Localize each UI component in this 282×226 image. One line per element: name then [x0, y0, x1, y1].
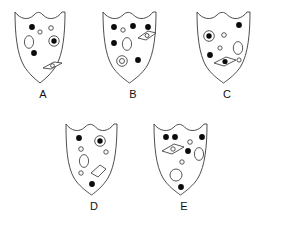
small-circle-d-3 — [79, 171, 83, 175]
dot-b-4 — [111, 40, 117, 46]
bullseye-d-core — [97, 138, 102, 143]
option-d[interactable]: D — [62, 120, 126, 212]
option-b-label: B — [100, 88, 166, 100]
shield-outline-a — [15, 12, 65, 83]
bullseye-a-core — [51, 38, 56, 43]
ellipse-c-1 — [233, 42, 242, 55]
small-circle-c-1 — [222, 33, 227, 38]
dot-e-2 — [172, 134, 178, 140]
dot-a-1 — [29, 24, 35, 30]
dot-e-3 — [199, 134, 205, 140]
shield-c-figure — [193, 8, 261, 86]
ellipse-a-1 — [24, 36, 33, 49]
option-a-label: A — [12, 88, 74, 100]
dot-c-2 — [207, 52, 213, 58]
small-circle-b-1 — [121, 28, 125, 32]
small-circle-a-1 — [38, 30, 42, 34]
small-circle-e-1 — [188, 140, 193, 145]
dot-e-4 — [185, 148, 191, 154]
diamond-e-inner-circle — [171, 147, 175, 151]
shield-a-figure — [12, 8, 74, 86]
dot-a-2 — [31, 50, 37, 56]
dot-e-5 — [178, 184, 184, 190]
dot-e-1 — [163, 134, 169, 140]
ellipse-d-1 — [79, 155, 88, 168]
option-d-label: D — [62, 200, 126, 212]
dot-c-1 — [236, 22, 242, 28]
option-e-label: E — [150, 200, 218, 212]
small-circle-d-1 — [79, 147, 84, 152]
small-circle-c-3 — [237, 58, 241, 62]
dot-b-1 — [111, 24, 117, 30]
shield-b-figure — [100, 8, 166, 86]
shield-options-figure: A B — [0, 0, 282, 226]
option-e[interactable]: E — [150, 120, 218, 212]
ellipse-e-1 — [194, 148, 203, 161]
shield-d-figure — [62, 120, 126, 198]
small-circle-d-2 — [104, 150, 108, 154]
dot-b-2 — [130, 23, 136, 29]
option-c-label: C — [193, 88, 261, 100]
large-circle-e-1 — [170, 169, 182, 181]
small-circle-c-2 — [218, 46, 222, 50]
dot-d-2 — [89, 181, 95, 187]
ellipse-b-1 — [122, 38, 131, 51]
option-a[interactable]: A — [12, 8, 74, 100]
option-b[interactable]: B — [100, 8, 166, 100]
diamond-c-inner-dot — [222, 59, 227, 64]
option-c[interactable]: C — [193, 8, 261, 100]
small-circle-a-2 — [49, 26, 54, 31]
diamond-b-inner-circle — [145, 34, 149, 38]
shield-e-figure — [150, 120, 218, 198]
bullseye-c-core — [206, 33, 211, 38]
dot-b-3 — [145, 24, 151, 30]
diamond-a-inner-circle — [51, 64, 55, 68]
small-circle-e-2 — [180, 160, 184, 164]
dot-d-1 — [76, 135, 82, 141]
dot-b-5 — [135, 57, 141, 63]
